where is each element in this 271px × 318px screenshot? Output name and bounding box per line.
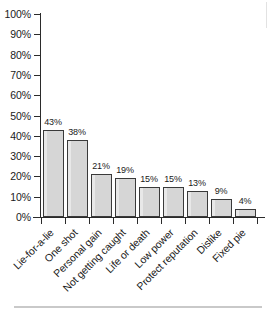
y-axis-tick-label: 90% (0, 29, 31, 39)
x-axis-tick (209, 218, 210, 224)
x-axis-tick (89, 218, 90, 224)
bar (91, 174, 112, 217)
y-axis-tick-label: 70% (0, 70, 31, 80)
x-axis-tick (113, 218, 114, 224)
y-axis-tick-label: 30% (0, 151, 31, 161)
y-axis-tick (34, 116, 41, 117)
y-axis-tick-label: 60% (0, 90, 31, 100)
bar-value-label: 38% (61, 128, 93, 137)
y-axis-tick-label: 50% (0, 111, 31, 121)
x-axis-line (33, 217, 265, 218)
y-axis-tick-label: 80% (0, 50, 31, 60)
bar (43, 130, 64, 217)
x-axis-tick (233, 218, 234, 224)
y-axis-tick-label: 100% (0, 9, 31, 19)
y-axis-tick (34, 176, 41, 177)
y-axis-tick (34, 197, 41, 198)
x-axis-tick (41, 218, 42, 224)
bar (163, 187, 184, 217)
bar-highlight (140, 188, 143, 216)
x-axis-tick (185, 218, 186, 224)
bar-highlight (212, 200, 215, 216)
y-axis-tick (34, 75, 41, 76)
y-axis-tick (34, 156, 41, 157)
bar (235, 209, 256, 217)
bar (139, 187, 160, 217)
bar-chart: 100%90%80%70%60%50%40%30%20%10%0% 43%38%… (0, 0, 271, 318)
bar (67, 140, 88, 217)
bar-value-label: 43% (37, 118, 69, 127)
page-edge-mark (266, 2, 267, 28)
bar-value-label: 4% (229, 197, 261, 206)
y-axis-tick (34, 55, 41, 56)
bar-highlight (188, 192, 191, 216)
x-axis-tick (65, 218, 66, 224)
y-axis-tick (34, 34, 41, 35)
y-axis-tick (34, 136, 41, 137)
bar-value-label: 19% (109, 166, 141, 175)
y-axis-tick-label: 10% (0, 192, 31, 202)
bar-highlight (92, 175, 95, 216)
y-axis-tick-label: 0% (0, 212, 31, 222)
y-axis-tick-label: 40% (0, 131, 31, 141)
page-horizontal-rule (14, 306, 262, 308)
x-axis-tick (137, 218, 138, 224)
bar-value-label: 9% (205, 187, 237, 196)
x-axis-tick (161, 218, 162, 224)
y-axis-tick (34, 14, 41, 15)
bar-highlight (68, 141, 71, 216)
bar-highlight (236, 210, 239, 216)
bar-highlight (164, 188, 167, 216)
y-axis-tick (34, 217, 41, 218)
y-axis-tick (34, 95, 41, 96)
bar-highlight (116, 179, 119, 216)
y-axis-tick-label: 20% (0, 171, 31, 181)
x-axis-tick (257, 218, 258, 224)
bar-highlight (44, 131, 47, 216)
